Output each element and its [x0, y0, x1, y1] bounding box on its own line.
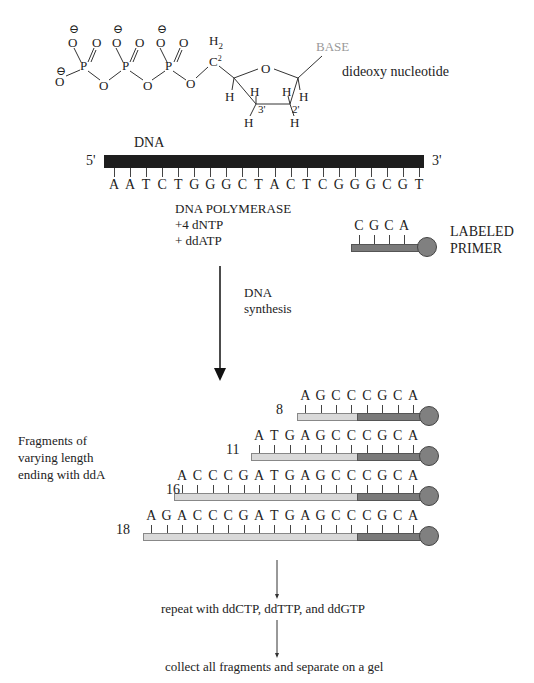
fragment-base: G [313, 468, 329, 484]
repeat-arrowhead-icon [275, 594, 279, 599]
fragment-base: C [359, 508, 375, 524]
fragment-base: A [174, 508, 190, 524]
fragment-base: T [266, 508, 282, 524]
new-strand-bar [174, 493, 359, 501]
fragment-base: G [236, 468, 252, 484]
fragment-base: C [328, 468, 344, 484]
repeat-step-text: repeat with ddCTP, ddTTP, and ddGTP [161, 601, 365, 617]
fragment-base: A [251, 428, 267, 444]
fragment-base: A [251, 508, 267, 524]
fragment-base: C [189, 508, 205, 524]
new-strand-bar [251, 453, 359, 461]
fragment-base: C [390, 508, 406, 524]
label-dot-icon [419, 446, 439, 466]
fragment-base: C [359, 468, 375, 484]
fragment-base: C [390, 428, 406, 444]
primer-strand-bar [357, 453, 425, 461]
fragment-base: G [313, 508, 329, 524]
fragment-base: A [405, 508, 421, 524]
fragment-length: 16 [166, 482, 180, 498]
fragment-base: G [313, 388, 329, 404]
fragment-base: C [343, 428, 359, 444]
label-dot-icon [419, 526, 439, 546]
fragment-base: C [220, 508, 236, 524]
fragment-length: 18 [116, 522, 130, 538]
fragment-base: G [374, 508, 390, 524]
fragment-base: G [236, 508, 252, 524]
fragment-base: C [189, 468, 205, 484]
fragment-base: C [390, 468, 406, 484]
fragment-base: C [359, 428, 375, 444]
fragment-base: C [359, 388, 375, 404]
fragment-base: C [205, 508, 221, 524]
fragment-base: C [343, 388, 359, 404]
new-strand-bar [297, 413, 359, 421]
fragment-base: G [313, 428, 329, 444]
fragment-base: C [390, 388, 406, 404]
fragment-base: C [343, 508, 359, 524]
label-dot-icon [419, 486, 439, 506]
fragment-base: G [374, 388, 390, 404]
fragment-length: 11 [226, 442, 239, 458]
new-strand-bar [143, 533, 359, 541]
primer-strand-bar [357, 413, 425, 421]
fragment-base: A [405, 388, 421, 404]
fragment-base: A [405, 468, 421, 484]
fragment-base: A [297, 428, 313, 444]
fragment-base: G [374, 468, 390, 484]
collect-arrowhead-icon [275, 653, 279, 658]
synthesis-arrowhead-icon [214, 368, 226, 381]
fragment-base: C [343, 468, 359, 484]
label-dot-icon [419, 406, 439, 426]
fragment-base: G [159, 508, 175, 524]
fragment-base: G [282, 508, 298, 524]
fragment-base: A [297, 468, 313, 484]
fragment-base: A [297, 388, 313, 404]
fragment-base: G [282, 468, 298, 484]
fragment-base: C [328, 508, 344, 524]
fragment-base: G [282, 428, 298, 444]
collect-step-text: collect all fragments and separate on a … [165, 659, 383, 675]
fragment-base: T [266, 468, 282, 484]
fragment-base: C [328, 388, 344, 404]
arrows [0, 0, 534, 683]
fragment-base: C [328, 428, 344, 444]
step-label-line1: DNA [244, 285, 272, 301]
primer-strand-bar [357, 533, 425, 541]
fragment-base: A [297, 508, 313, 524]
fragment-base: A [143, 508, 159, 524]
step-label-line2: synthesis [244, 301, 292, 317]
fragment-base: C [205, 468, 221, 484]
fragment-base: A [405, 428, 421, 444]
fragment-base: G [374, 428, 390, 444]
fragment-base: C [220, 468, 236, 484]
fragment-base: T [266, 428, 282, 444]
fragment-base: A [251, 468, 267, 484]
primer-strand-bar [357, 493, 425, 501]
fragment-length: 8 [276, 402, 283, 418]
